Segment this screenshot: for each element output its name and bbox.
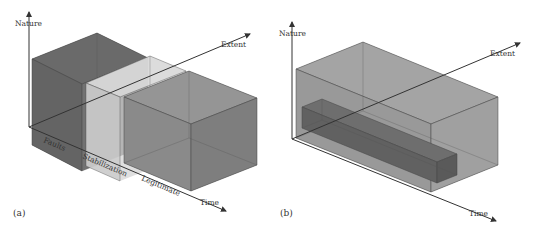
panel-a: Nature Extent Time Faults Stabilization …	[13, 12, 257, 218]
panel-a-tag: (a)	[13, 208, 25, 218]
time-axis-label: Time	[200, 198, 220, 207]
diagram-canvas: Nature Extent Time Faults Stabilization …	[0, 0, 535, 234]
nature-axis-label: Nature	[15, 19, 42, 28]
panel-b: Nature Extent Time (b)	[279, 22, 520, 221]
figure: Nature Extent Time Faults Stabilization …	[0, 0, 535, 234]
panel-b-tag: (b)	[280, 208, 293, 218]
nature-axis-label-b: Nature	[279, 29, 306, 38]
extent-axis-label-b: Extent	[490, 49, 515, 58]
time-axis-label-b: Time	[469, 209, 489, 218]
extent-axis-label: Extent	[221, 40, 246, 49]
